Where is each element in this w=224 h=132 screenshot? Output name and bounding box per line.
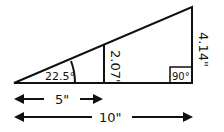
half-base-label: 5" [55, 92, 69, 107]
mid-height-label: 2.07" [108, 50, 123, 85]
full-base-label: 10" [99, 110, 122, 125]
arrowhead-right-icon [183, 112, 193, 122]
right-angle-label: 90° [172, 71, 190, 82]
triangle-diagram: 22.5° 90° 2.07" 4.14" 5" 10" [0, 0, 224, 132]
full-height-label: 4.14" [196, 32, 211, 67]
arrowhead-left-icon [14, 94, 24, 104]
arrowhead-left-icon [14, 112, 24, 122]
angle-label: 22.5° [45, 70, 75, 83]
arrowhead-right-icon [93, 94, 103, 104]
